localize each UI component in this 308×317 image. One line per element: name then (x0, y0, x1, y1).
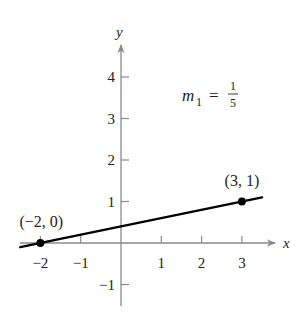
y-tick-label: 3 (108, 111, 116, 127)
x-tick-label: −1 (73, 255, 89, 271)
fraction-numerator: 1 (230, 79, 236, 93)
y-tick-label: 2 (108, 152, 116, 168)
data-point (238, 198, 246, 206)
slope-subscript: 1 (196, 95, 202, 109)
slope-annotation: m 1 = 1 5 (182, 79, 238, 110)
data-point (36, 239, 44, 247)
x-axis-label: x (282, 235, 290, 251)
point-label: (−2, 0) (19, 213, 63, 231)
y-axis-label: y (114, 24, 123, 40)
x-tick-label: −2 (32, 255, 48, 271)
x-ticks: −2−1123 (32, 236, 245, 271)
point-label: (3, 1) (225, 172, 260, 190)
y-tick-label: 1 (108, 194, 116, 210)
slope-symbol: m (182, 86, 194, 105)
y-tick-label: −1 (99, 277, 115, 293)
equals-sign: = (209, 86, 219, 105)
x-tick-label: 2 (198, 255, 206, 271)
coordinate-plane: x y −2−1123 −11234 (−2, 0)(3, 1) m 1 = 1… (0, 0, 308, 317)
fraction-denominator: 5 (230, 96, 236, 110)
y-tick-label: 4 (108, 69, 116, 85)
data-points: (−2, 0)(3, 1) (19, 172, 259, 248)
y-ticks: −11234 (99, 69, 129, 293)
x-tick-label: 3 (238, 255, 246, 271)
x-tick-label: 1 (158, 255, 166, 271)
